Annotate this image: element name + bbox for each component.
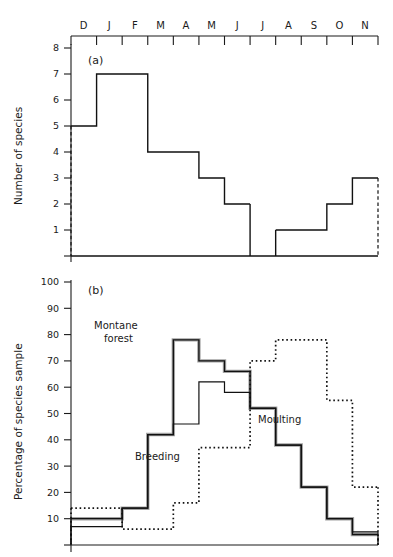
month-label-j-6: J — [235, 20, 239, 31]
panel-a-label: (a) — [88, 54, 103, 67]
month-label-j-1: J — [107, 20, 111, 31]
panel-b-tick-label-70: 70 — [47, 355, 59, 366]
panel-b-tick-label-80: 80 — [47, 329, 59, 340]
panel-b-tick-label-10: 10 — [47, 513, 59, 524]
series-montane-forest-path — [71, 340, 378, 535]
panel-b-ticks — [64, 282, 71, 545]
panel-b-tick-label-20: 20 — [47, 487, 59, 498]
panel-b-tick-label-40: 40 — [47, 434, 59, 445]
panel-a-tick-label-3: 3 — [53, 172, 59, 183]
annotation-moulting: Moulting — [258, 414, 301, 425]
month-label-f-2: F — [132, 20, 138, 31]
annotation-breeding: Breeding — [135, 451, 180, 462]
panel-a-tick-label-2: 2 — [53, 198, 59, 209]
month-axis-labels: DJFMAMJJASON — [80, 20, 369, 31]
panel-a-tick-label-1: 1 — [53, 224, 59, 235]
panel-b-series-group — [71, 340, 378, 545]
month-label-o-10: O — [336, 20, 344, 31]
panel-b-y-axis-title: Percentage of species sample — [12, 343, 24, 500]
panel-a-step-path-1 — [276, 178, 378, 230]
panel-a-tick-label-5: 5 — [53, 120, 59, 131]
panel-a-tick-label-8: 8 — [53, 42, 59, 53]
month-label-n-11: N — [361, 20, 369, 31]
month-label-j-7: J — [260, 20, 264, 31]
panel-a: (a) 87654321 Number of species — [12, 42, 378, 262]
panel-b-tick-label-100: 100 — [41, 276, 59, 287]
figure-root: DJFMAMJJASON (a) 87654321 Number of spec… — [0, 0, 393, 557]
month-label-m-3: M — [156, 20, 165, 31]
series-breeding-path — [71, 382, 378, 532]
month-label-a-4: A — [183, 20, 190, 31]
panel-b-tick-label-90: 90 — [47, 303, 59, 314]
panel-b-label: (b) — [88, 284, 104, 297]
panel-a-tick-label-7: 7 — [53, 68, 59, 79]
panel-b-tick-labels: 100908070605040302010 — [41, 276, 59, 524]
panel-b: (b) 100908070605040302010 Percentage of … — [12, 276, 378, 552]
panel-a-step-path-0 — [71, 74, 250, 204]
month-axis: DJFMAMJJASON — [71, 20, 378, 45]
annotation-montane-line2: forest — [104, 333, 133, 344]
seasonal-species-figure: DJFMAMJJASON (a) 87654321 Number of spec… — [0, 0, 393, 557]
month-label-m-5: M — [207, 20, 216, 31]
panel-a-tick-label-6: 6 — [53, 94, 59, 105]
month-label-d-0: D — [80, 20, 88, 31]
panel-a-ticks — [64, 48, 71, 256]
panel-b-tick-label-60: 60 — [47, 382, 59, 393]
panel-a-tick-label-4: 4 — [53, 146, 59, 157]
panel-a-tick-labels: 87654321 — [53, 42, 59, 235]
panel-b-tick-label-50: 50 — [47, 408, 59, 419]
month-label-a-8: A — [285, 20, 292, 31]
panel-b-tick-label-30: 30 — [47, 461, 59, 472]
panel-a-y-axis-title: Number of species — [12, 107, 24, 205]
panel-a-step-histogram — [71, 74, 378, 256]
month-axis-ticks — [71, 36, 378, 45]
month-label-s-9: S — [311, 20, 318, 31]
annotation-montane-line1: Montane — [94, 320, 138, 331]
